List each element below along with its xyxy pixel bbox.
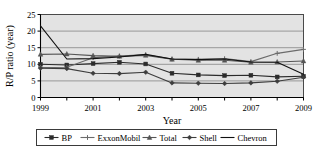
y-tick-label: 20 [27, 26, 36, 36]
x-tick-label: 1999 [32, 103, 49, 113]
legend-item-label: ExxonMobil [98, 133, 142, 143]
data-point-marker [223, 74, 227, 78]
chart-figure: 0510152025199920012003200520072009R/P ra… [0, 0, 313, 151]
x-tick-label: 2003 [137, 103, 154, 113]
data-point-marker [91, 62, 95, 66]
data-point-marker [170, 71, 174, 75]
y-axis-title: R/P ratio (year) [4, 25, 16, 87]
data-point-marker [196, 73, 200, 77]
y-tick-label: 0 [31, 93, 35, 103]
legend-swatch-marker [50, 136, 54, 140]
legend-item-label: BP [62, 133, 73, 143]
y-tick-label: 25 [27, 10, 36, 20]
data-point-marker [249, 73, 253, 77]
line-chart: 0510152025199920012003200520072009R/P ra… [0, 0, 313, 151]
legend: BPExxonMobilTotalShellChevron [37, 130, 277, 146]
data-point-marker [275, 75, 279, 79]
legend-item-label: Shell [200, 133, 218, 143]
data-point-marker [118, 60, 122, 64]
data-point-marker [144, 62, 148, 66]
x-tick-label: 2001 [85, 103, 102, 113]
legend-item-label: Total [160, 133, 178, 143]
x-axis-ticks: 199920012003200520072009 [32, 98, 312, 113]
x-tick-label: 2009 [295, 103, 312, 113]
x-tick-label: 2005 [190, 103, 207, 113]
x-tick-label: 2007 [242, 103, 259, 113]
y-tick-label: 10 [27, 59, 36, 69]
x-axis-title: Year [163, 115, 182, 126]
y-tick-label: 5 [31, 76, 35, 86]
legend-item-label: Chevron [238, 133, 268, 143]
y-tick-label: 15 [27, 43, 36, 53]
